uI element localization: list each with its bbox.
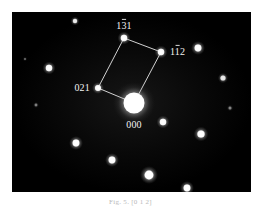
- diffraction-spot-s12: [227, 105, 233, 111]
- spot-core: [73, 19, 77, 23]
- diffraction-spot-s11: [33, 102, 39, 108]
- spot-core: [95, 85, 101, 91]
- diffraction-spot-s9: [140, 166, 158, 184]
- spot-core: [220, 75, 225, 80]
- spot-core: [46, 65, 52, 71]
- spot-core: [195, 45, 202, 52]
- index-label-text: 131: [116, 20, 132, 31]
- diffraction-spot-s2: [43, 62, 56, 75]
- diffraction-spot-s13: [23, 57, 28, 62]
- spot-core: [160, 119, 166, 125]
- index-label-000: 000: [126, 119, 142, 130]
- diffraction-spot-s1: [71, 17, 80, 26]
- spot-core: [35, 104, 38, 107]
- diffraction-spot-112: [155, 46, 168, 59]
- diffraction-spot-s3: [191, 41, 205, 55]
- spot-core: [124, 93, 145, 114]
- diffraction-pattern-panel: 131112021000: [12, 12, 251, 192]
- figure-caption: Fig. 5. [0 1 2]: [0, 196, 261, 208]
- spot-core: [145, 171, 154, 180]
- diffraction-pattern-svg: 131112021000: [12, 12, 251, 192]
- spot-core: [73, 140, 80, 147]
- spot-core: [24, 58, 26, 60]
- index-label-112: 112: [170, 45, 185, 57]
- spot-core: [229, 107, 232, 110]
- spot-core: [158, 49, 164, 55]
- index-label-131: 131: [116, 19, 132, 31]
- diffraction-spot-s5: [157, 116, 170, 129]
- index-label-text: 000: [126, 119, 142, 130]
- diffraction-spot-131: [118, 32, 131, 45]
- spot-core: [197, 130, 204, 137]
- diffraction-spot-s4: [218, 73, 228, 83]
- diffraction-spot-021: [92, 82, 104, 94]
- spot-core: [184, 185, 191, 192]
- diffraction-spot-s8: [105, 153, 119, 167]
- index-label-text: 021: [74, 82, 90, 93]
- diffraction-spot-s6: [194, 127, 209, 142]
- diffraction-spot-s7: [69, 136, 83, 150]
- index-label-021: 021: [74, 82, 90, 93]
- spot-core: [121, 35, 127, 41]
- spot-core: [109, 157, 116, 164]
- diffraction-spot-000: [113, 82, 155, 124]
- index-label-text: 112: [170, 46, 185, 57]
- figure-root: 131112021000 Fig. 5. [0 1 2]: [0, 0, 261, 208]
